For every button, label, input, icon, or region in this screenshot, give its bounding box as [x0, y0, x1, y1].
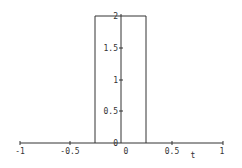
y-tick-label: 0.5 [104, 107, 119, 116]
y-tick-label: 1.5 [104, 44, 119, 53]
x-axis-label: t [191, 151, 196, 160]
x-tick-label: 0 [124, 147, 129, 156]
x-tick-label: 1 [220, 147, 225, 156]
x-tick-label: -0.5 [60, 147, 79, 156]
x-tick-label: 0.5 [165, 147, 180, 156]
y-tick-label: 0 [113, 139, 118, 148]
y-tick-label: 1 [113, 76, 118, 85]
x-tick-label: -1 [15, 147, 25, 156]
pulse-chart: -1 -0.5 0 0.5 1 t 0 0.5 1 1.5 2 [0, 0, 242, 168]
